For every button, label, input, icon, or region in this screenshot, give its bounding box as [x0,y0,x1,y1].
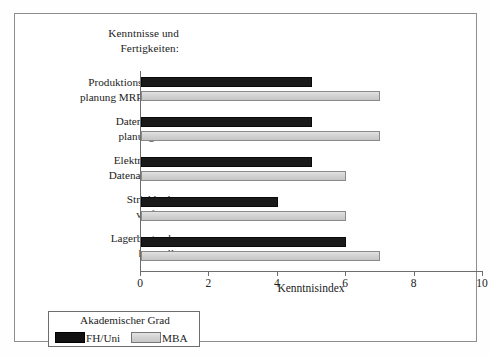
bar-mba-3 [141,171,346,181]
legend-swatch-mba [131,332,161,343]
bar-mba-2 [141,131,380,141]
y-axis-group-title-line1: Kenntnisse und [33,26,179,41]
bar-fh-uni-3 [141,157,312,167]
legend-swatch-fh-uni [55,332,85,343]
y-axis-group-title: Kenntnisse und Fertigkeiten: [33,26,179,56]
plot-area: 0246810 [140,71,482,271]
x-tick-4 [277,271,278,276]
x-axis-label: Kenntnisindex [140,282,482,294]
chart-legend: Akademischer Grad FH/Uni MBA [48,311,200,347]
bar-mba-5 [141,251,380,261]
legend-title: Akademischer Grad [49,314,201,326]
bar-fh-uni-1 [141,77,312,87]
x-tick-6 [345,271,346,276]
bar-mba-1 [141,91,380,101]
bar-mba-4 [141,211,346,221]
bar-fh-uni-4 [141,197,278,207]
legend-label-mba: MBA [162,332,188,344]
legend-item-mba[interactable]: MBA [131,331,188,344]
legend-items: FH/Uni MBA [55,331,201,345]
legend-item-fh-uni[interactable]: FH/Uni [55,331,120,344]
bar-fh-uni-2 [141,117,312,127]
bar-fh-uni-5 [141,237,346,247]
x-axis-line [140,271,482,272]
chart-frame: Kenntnisse und Fertigkeiten: Produktions… [14,13,477,342]
y-axis-group-title-line2: Fertigkeiten: [33,41,179,56]
legend-label-fh-uni: FH/Uni [86,332,120,344]
chart-figure: Kenntnisse und Fertigkeiten: Produktions… [0,0,490,357]
x-tick-0 [140,271,141,276]
x-tick-10 [482,271,483,276]
x-tick-8 [414,271,415,276]
x-tick-2 [208,271,209,276]
